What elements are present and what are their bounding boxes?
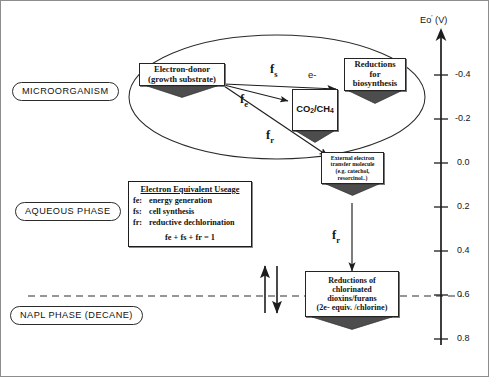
flux-label-fe: fe — [240, 92, 248, 109]
node-biosynthesis: Reductions for biosynthesis — [344, 58, 406, 104]
node-external-mediator-box: External electron transfer molecule (e.g… — [321, 152, 384, 184]
phase-label-microorganism: MICROORGANISM — [12, 82, 119, 101]
node-external-mediator-line4: resorcinol..) — [331, 175, 375, 182]
node-dechlorination-line4: (2e- equiv. /chlorine) — [317, 303, 388, 312]
legend-desc-fe: energy generation — [149, 196, 237, 207]
axis-tick-label--0.2: -0.2 — [455, 113, 471, 123]
node-co2-ch4-foot — [292, 131, 338, 143]
node-dechlorination: Reductions of chlorinated dioxins/furans… — [305, 271, 399, 330]
legend-electron-equivalent-usage: Electron Equivalent Useage fe: energy ge… — [128, 181, 252, 247]
axis-title: Eo' (V) — [420, 14, 447, 25]
axis-tick-label-0.2: 0.2 — [457, 201, 470, 211]
node-co2-ch4-box: CO2/CH4 — [292, 89, 338, 131]
phase-label-aqueous: AQUEOUS PHASE — [15, 202, 121, 221]
flux-label-fs: fs — [270, 62, 277, 79]
node-electron-donor-box: Electron-donor (growth substrate) — [139, 63, 225, 86]
legend-row: fs: cell synthesis — [133, 207, 237, 218]
figure-canvas: MICROORGANISM AQUEOUS PHASE NAPL PHASE (… — [0, 0, 489, 377]
node-external-mediator-line1: External electron — [331, 155, 375, 162]
node-dechlorination-line3: dioxins/furans — [317, 294, 388, 303]
legend-sum-equation: fe + fs + fr = 1 — [133, 232, 247, 243]
legend-row: fr: reductive dechlorination — [133, 218, 237, 229]
node-external-mediator-line2: transfer molecule — [331, 161, 375, 168]
node-biosynthesis-box: Reductions for biosynthesis — [344, 58, 406, 91]
node-electron-donor-foot — [139, 86, 225, 98]
legend-desc-fs: cell synthesis — [149, 207, 237, 218]
legend-title: Electron Equivalent Useage — [133, 184, 247, 195]
legend-key-fe: fe: — [133, 196, 149, 207]
axis-tick-label--0.4: -0.4 — [455, 69, 471, 79]
node-external-mediator-line3: (e.g. catechol, — [331, 168, 375, 175]
node-external-mediator-foot — [321, 184, 384, 196]
phase-label-napl: NAPL PHASE (DECANE) — [10, 306, 143, 325]
node-electron-donor-line2: (growth substrate) — [148, 75, 216, 85]
legend-desc-fr: reductive dechlorination — [149, 218, 237, 229]
flux-label-fr2: fr — [332, 228, 340, 245]
node-dechlorination-foot — [305, 317, 399, 330]
axis-tick-label-0.0: 0.0 — [457, 157, 470, 167]
legend-key-fr: fr: — [133, 218, 149, 229]
node-electron-donor: Electron-donor (growth substrate) — [139, 63, 225, 98]
node-biosynthesis-line3: biosynthesis — [353, 79, 397, 89]
flux-label-fr: fr — [266, 128, 274, 145]
node-co2-ch4: CO2/CH4 — [292, 89, 338, 143]
legend-row: fe: energy generation — [133, 196, 237, 207]
axis-tick-label-0.4: 0.4 — [457, 245, 470, 255]
axis-tick-label-0.6: 0.6 — [457, 289, 470, 299]
legend-table: fe: energy generation fs: cell synthesis… — [133, 196, 237, 228]
node-biosynthesis-foot — [344, 91, 406, 104]
electron-label: e- — [308, 69, 316, 80]
node-co2-ch4-formula: CO2/CH4 — [293, 103, 337, 116]
node-dechlorination-box: Reductions of chlorinated dioxins/furans… — [305, 271, 399, 317]
axis-tick-label-0.8: 0.8 — [457, 333, 470, 343]
legend-key-fs: fs: — [133, 207, 149, 218]
node-dechlorination-line1: Reductions of — [317, 276, 388, 285]
node-dechlorination-line2: chlorinated — [317, 285, 388, 294]
node-external-mediator: External electron transfer molecule (e.g… — [321, 152, 384, 196]
